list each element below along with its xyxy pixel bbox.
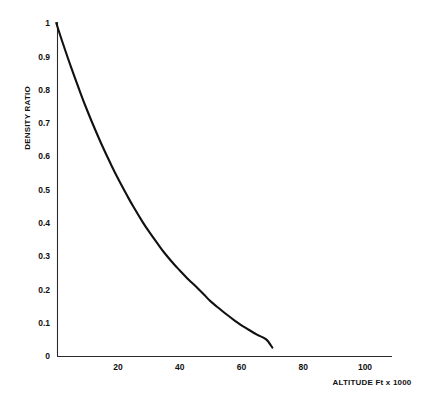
x-axis-tick-labels: 20406080100 <box>113 362 372 372</box>
x-tick-label: 40 <box>175 362 185 372</box>
y-tick-label: 0.8 <box>38 85 50 95</box>
density-ratio-altitude-chart: 00.10.20.30.40.50.60.70.80.91 2040608010… <box>0 0 430 404</box>
y-tick-label: 1 <box>45 18 50 28</box>
x-tick-label: 60 <box>237 362 247 372</box>
density-ratio-curve <box>56 23 272 348</box>
y-tick-label: 0.1 <box>38 318 50 328</box>
x-tick-label: 80 <box>299 362 309 372</box>
y-tick-label: 0.4 <box>38 218 50 228</box>
chart-figure: 00.10.20.30.40.50.60.70.80.91 2040608010… <box>0 0 430 404</box>
y-tick-label: 0.2 <box>38 285 50 295</box>
x-tick-label: 20 <box>113 362 123 372</box>
y-tick-label: 0.5 <box>38 185 50 195</box>
y-tick-label: 0.7 <box>38 118 50 128</box>
x-tick-label: 100 <box>358 362 372 372</box>
y-tick-label: 0.6 <box>38 151 50 161</box>
y-axis-tick-labels: 00.10.20.30.40.50.60.70.80.91 <box>38 18 50 361</box>
y-tick-label: 0.9 <box>38 52 50 62</box>
x-axis-title: ALTITUDE Ft x 1000 <box>332 378 411 387</box>
y-axis-title: DENSITY RATIO <box>23 86 32 150</box>
y-tick-label: 0 <box>45 351 50 361</box>
y-tick-label: 0.3 <box>38 251 50 261</box>
axis-lines <box>57 22 392 357</box>
